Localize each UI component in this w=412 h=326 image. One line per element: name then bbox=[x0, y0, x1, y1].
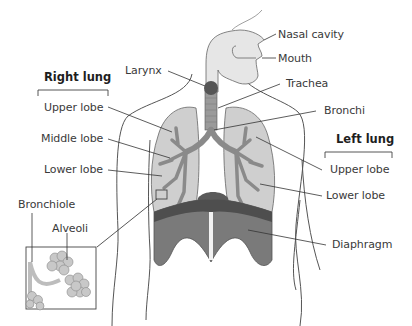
label-right-upper-lobe: Upper lobe bbox=[44, 101, 103, 114]
respiratory-diagram: Right lung Left lung Nasal cavity Mouth … bbox=[0, 0, 412, 326]
label-nasal-cavity: Nasal cavity bbox=[278, 28, 344, 41]
larynx-shape bbox=[204, 81, 218, 95]
right-lung-heading: Right lung bbox=[44, 70, 111, 84]
label-alveoli: Alveoli bbox=[52, 222, 88, 235]
label-larynx: Larynx bbox=[125, 64, 162, 77]
label-right-lower-lobe: Lower lobe bbox=[44, 163, 103, 176]
label-mouth: Mouth bbox=[278, 52, 312, 65]
label-bronchi: Bronchi bbox=[324, 104, 365, 117]
label-left-upper-lobe: Upper lobe bbox=[330, 163, 389, 176]
left-lung-heading: Left lung bbox=[336, 132, 394, 146]
label-bronchiole: Bronchiole bbox=[18, 198, 75, 211]
label-diaphragm: Diaphragm bbox=[332, 238, 392, 251]
label-trachea: Trachea bbox=[286, 77, 328, 90]
head-airway bbox=[206, 10, 264, 92]
label-right-middle-lobe: Middle lobe bbox=[41, 132, 103, 145]
label-left-lower-lobe: Lower lobe bbox=[326, 189, 385, 202]
right-lung-shape bbox=[151, 107, 199, 214]
alveoli-inset bbox=[26, 251, 91, 310]
diaphragm-shape bbox=[154, 200, 272, 266]
trachea bbox=[204, 81, 218, 130]
